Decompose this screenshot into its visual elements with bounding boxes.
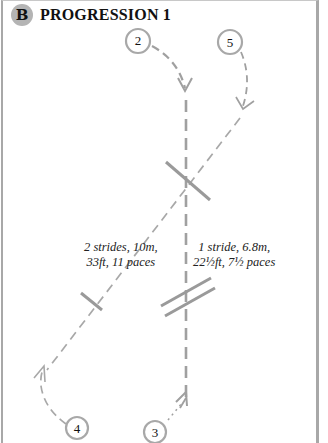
distance-left-line1: 2 strides, 10m, [84,240,158,255]
stop-label-3: 3 [143,421,167,443]
distance-left: 2 strides, 10m, 33ft, 11 paces [84,240,158,270]
distance-right: 1 stride, 6.8m, 22½ft, 7½ paces [193,240,275,270]
fence-cross-a [166,162,210,200]
arrowhead-4-icon [34,366,45,382]
fence-double-b [165,288,215,316]
route-5-curve [241,52,247,106]
stop-label-2: 2 [126,29,150,53]
stop-label-4: 4 [65,417,89,441]
arrowhead-5-icon [236,97,254,109]
distance-left-line2: 33ft, 11 paces [84,255,158,270]
route-3-approach [168,403,182,420]
distance-right-line1: 1 stride, 6.8m, [193,240,275,255]
course-diagram [0,0,328,443]
distance-right-line2: 22½ft, 7½ paces [193,255,275,270]
stop-label-5: 5 [218,31,242,55]
arrowhead-2-icon [178,78,192,91]
